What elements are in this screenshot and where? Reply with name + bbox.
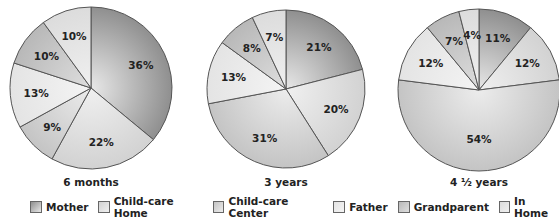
- slice-value-label: 12%: [515, 57, 541, 69]
- slice-value-label: 54%: [466, 133, 492, 145]
- pie-slice-child-care-center: [398, 80, 559, 171]
- legend-item-child-care-home: Child-care Home: [98, 195, 203, 219]
- slice-value-label: 10%: [34, 50, 60, 62]
- legend-swatch-icon: [98, 201, 109, 213]
- slice-value-label: 31%: [252, 132, 278, 144]
- pie-title-4-half-years: 4 ½ years: [450, 176, 508, 188]
- slice-value-label: 12%: [418, 57, 444, 69]
- pie-0: 36%22%9%13%10%10%: [10, 7, 172, 169]
- legend-swatch-icon: [333, 201, 345, 213]
- pie-title-3-years: 3 years: [264, 176, 307, 188]
- slice-value-label: 13%: [24, 87, 50, 99]
- pie-title-6-months: 6 months: [63, 176, 118, 188]
- slice-value-label: 7%: [265, 31, 283, 43]
- legend-label: Child-care Home: [114, 195, 204, 219]
- legend-swatch-icon: [398, 201, 410, 213]
- legend-swatch-icon: [499, 201, 510, 213]
- slice-value-label: 20%: [323, 103, 349, 115]
- slice-value-label: 21%: [306, 41, 332, 53]
- pie-charts-area: 36%22%9%13%10%10%21%20%31%13%8%7%11%12%5…: [0, 0, 559, 195]
- slice-value-label: 10%: [61, 30, 87, 42]
- legend-swatch-icon: [213, 201, 224, 213]
- slice-value-label: 8%: [243, 42, 261, 54]
- slice-value-label: 4%: [463, 29, 481, 41]
- legend-item-mother: Mother: [30, 201, 88, 213]
- legend-label: Father: [349, 201, 387, 213]
- legend-item-father: Father: [333, 201, 387, 213]
- legend: Mother Child-care Home Child-care Center…: [0, 197, 559, 217]
- pie-2: 11%12%54%12%7%4%: [398, 9, 559, 171]
- legend-item-grandparent: Grandparent: [398, 201, 489, 213]
- pie-1: 21%20%31%13%8%7%: [207, 10, 365, 168]
- slice-value-label: 22%: [89, 136, 115, 148]
- slice-value-label: 7%: [445, 35, 463, 47]
- slice-value-label: 36%: [128, 59, 154, 71]
- legend-label: In Home: [514, 195, 559, 219]
- slice-value-label: 13%: [221, 71, 247, 83]
- legend-label: Mother: [46, 201, 88, 213]
- legend-label: Grandparent: [414, 201, 489, 213]
- pie-charts-svg: 36%22%9%13%10%10%21%20%31%13%8%7%11%12%5…: [0, 0, 559, 195]
- slice-value-label: 11%: [485, 32, 511, 44]
- legend-item-child-care-center: Child-care Center: [213, 195, 323, 219]
- legend-swatch-icon: [30, 201, 42, 213]
- slice-value-label: 9%: [43, 121, 61, 133]
- legend-label: Child-care Center: [228, 195, 323, 219]
- legend-item-in-home: In Home: [499, 195, 559, 219]
